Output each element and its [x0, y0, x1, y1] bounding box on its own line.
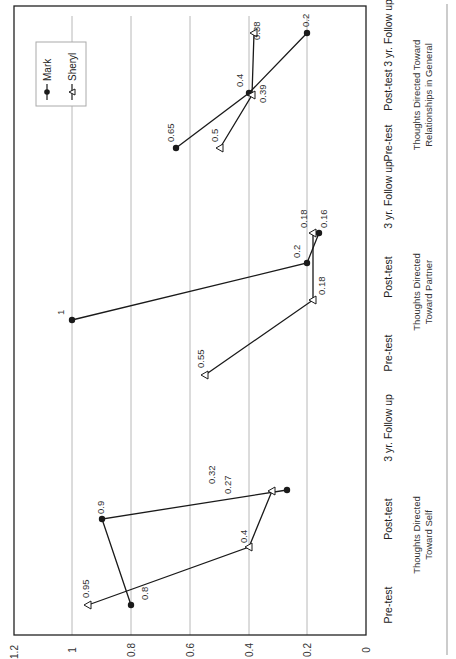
tick-0.8: 0.8 [126, 643, 137, 657]
label-mark-self-follow: 0.27 [222, 476, 233, 495]
label-mark-partner-follow: 0.16 [318, 210, 329, 229]
tick-0.2: 0.2 [302, 643, 313, 657]
cat-self-post: Post-test [382, 498, 394, 540]
cat-partner-pre-vis: Pre-test [382, 335, 394, 372]
tick-0: 0 [361, 647, 372, 653]
group-self-line2: Toward Self [423, 510, 434, 560]
legend-sheryl-label: Sheryl [67, 53, 78, 81]
tick-1: 1 [67, 647, 78, 653]
legend-mark-circle-icon [44, 89, 50, 95]
cat-partner-follow: 3 yr. Follow up [382, 161, 394, 229]
label-sheryl-partner-pre: 0.55 [195, 350, 206, 369]
tick-0.6: 0.6 [185, 643, 196, 657]
rotated-line-chart: 1.2 1 0.8 0.6 0.4 0.2 0 Pre-test Post-te… [0, 0, 456, 659]
legend-mark-label: Mark [42, 58, 53, 81]
cat-partner-post: Post-test [382, 256, 394, 298]
label-mark-rel-follow: 0.2 [300, 14, 311, 27]
label-sheryl-self-follow: 0.32 [206, 466, 217, 485]
cat-rel-post: Post-test [382, 69, 394, 111]
data-labels: 0.8 0.9 0.27 0.95 0.4 0.32 1 0.2 0.16 0.… [55, 14, 329, 600]
category-axis: Pre-test Post-test 3 yr. Follow up Pre-t… [382, 0, 394, 623]
label-mark-rel-post: 0.4 [234, 74, 245, 87]
legend: Mark Sheryl [36, 42, 86, 106]
label-sheryl-partner-follow: 0.18 [298, 210, 309, 229]
series-sheryl [84, 29, 316, 609]
label-mark-self-pre: 0.8 [139, 587, 150, 600]
group-rel-line2: Relationships in General [423, 43, 434, 147]
label-sheryl-self-pre: 0.95 [80, 580, 91, 599]
group-rel-line1: Thoughts Directed Toward [411, 40, 422, 151]
label-sheryl-partner-post: 0.18 [316, 277, 327, 296]
cat-self-pre: Pre-test [382, 587, 394, 624]
cat-rel-pre: Pre-test [382, 125, 394, 162]
tick-1.2: 1.2 [9, 645, 20, 659]
value-axis: 1.2 1 0.8 0.6 0.4 0.2 0 [9, 643, 372, 659]
group-partner-line1: Thoughts Directed [411, 253, 422, 331]
group-labels: Thoughts Directed Toward Self Thoughts D… [411, 40, 434, 574]
label-sheryl-rel-post: 0.39 [257, 85, 268, 104]
group-partner-line2: Toward Partner [423, 260, 434, 324]
label-sheryl-self-post: 0.4 [238, 530, 249, 543]
label-mark-self-post: 0.9 [95, 501, 106, 514]
label-sheryl-rel-follow: 0.38 [251, 22, 262, 41]
label-mark-partner-post: 0.2 [291, 245, 302, 258]
series-mark [69, 30, 322, 608]
gridlines [72, 16, 307, 635]
label-mark-partner-pre: 1 [55, 310, 66, 315]
label-sheryl-rel-pre: 0.5 [209, 129, 220, 142]
group-self-line1: Thoughts Directed [411, 496, 422, 574]
label-mark-rel-pre: 0.65 [165, 124, 176, 143]
cat-rel-follow: 3 yr. Follow up [382, 0, 394, 67]
tick-0.4: 0.4 [244, 643, 255, 657]
